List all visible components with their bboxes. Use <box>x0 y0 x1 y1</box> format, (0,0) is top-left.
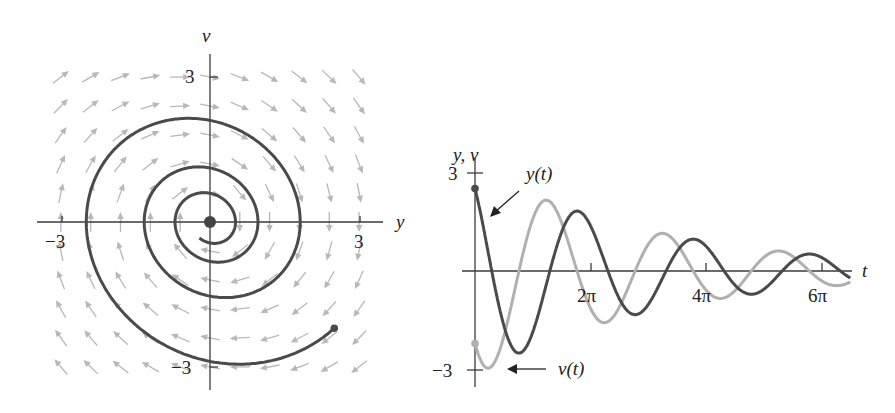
field-arrowhead-icon <box>237 225 243 232</box>
field-arrowhead-icon <box>357 195 363 203</box>
field-arrowhead-icon <box>260 364 268 370</box>
field-arrowhead-icon <box>117 212 123 219</box>
figure: v y −3 3 3 −3 y, v t 3 −3 2π 4π 6π y(t) … <box>0 0 895 413</box>
y-annotation-arrow-icon <box>490 191 519 217</box>
field-arrowhead-icon <box>270 105 278 112</box>
v-annotation-arrow-icon <box>507 364 546 374</box>
field-arrowhead-icon <box>260 336 268 342</box>
field-arrowhead-icon <box>58 212 64 219</box>
field-arrowhead-icon <box>325 253 331 261</box>
field-arrowhead-icon <box>200 247 208 253</box>
field-arrowhead-icon <box>230 278 238 284</box>
field-arrowhead-icon <box>119 184 125 192</box>
field-arrowhead-icon <box>295 253 301 261</box>
field-arrowhead-icon <box>212 104 220 110</box>
field-arrowhead-icon <box>200 334 208 340</box>
field-arrowhead-icon <box>328 136 335 144</box>
field-arrowhead-icon <box>212 162 220 168</box>
time-tick-label-pos3: 3 <box>448 163 458 184</box>
field-arrowhead-icon <box>122 73 130 79</box>
field-arrowhead-icon <box>200 363 208 369</box>
phase-v-axis-label: v <box>202 25 211 46</box>
field-arrowhead-icon <box>58 183 64 191</box>
field-arrowhead-icon <box>177 212 183 219</box>
field-arrowhead-icon <box>147 212 153 219</box>
field-arrowhead-icon <box>182 160 190 166</box>
phase-tick-label-y-pos3: 3 <box>354 231 364 252</box>
field-arrowhead-icon <box>212 133 220 139</box>
field-arrowhead-icon <box>152 102 160 108</box>
time-tick-label-4pi: 4π <box>692 285 712 306</box>
time-t-axis-label: t <box>862 260 868 281</box>
field-arrowhead-icon <box>290 365 298 371</box>
phase-start-point <box>330 324 338 332</box>
y-of-t-annotation: y(t) <box>524 163 552 185</box>
field-arrowhead-icon <box>327 195 333 203</box>
phase-tick-label-y-neg3: −3 <box>45 231 65 252</box>
v-of-t-curve <box>475 200 850 368</box>
time-tick-label-6pi: 6π <box>808 285 828 306</box>
field-arrowhead-icon <box>326 225 332 232</box>
field-arrowhead-icon <box>358 107 365 115</box>
time-yv-axis-label: y, v <box>451 144 479 165</box>
field-arrowhead-icon <box>91 100 99 107</box>
field-arrowhead-icon <box>230 335 237 341</box>
phase-plane-chart: v y −3 3 3 −3 <box>37 25 405 390</box>
field-arrowhead-icon <box>200 276 208 282</box>
field-arrowhead-icon <box>117 242 123 250</box>
time-tick-label-2pi: 2π <box>577 285 597 306</box>
field-arrowhead-icon <box>61 71 69 78</box>
equilibrium-point <box>204 216 216 228</box>
phase-tick-label-v-pos3: 3 <box>185 66 195 87</box>
field-arrowhead-icon <box>153 73 161 79</box>
field-arrowhead-icon <box>355 253 361 261</box>
field-arrowhead-icon <box>351 366 359 373</box>
field-arrowhead-icon <box>183 103 190 109</box>
field-arrowhead-icon <box>88 212 94 219</box>
v-of-t-annotation: v(t) <box>558 358 584 380</box>
time-series-chart: y, v t 3 −3 2π 4π 6π y(t) v(t) <box>432 144 868 387</box>
field-arrowhead-icon <box>113 361 121 368</box>
field-arrowhead-icon <box>57 271 63 279</box>
field-arrowhead-icon <box>60 127 67 134</box>
field-arrowhead-icon <box>353 310 360 318</box>
time-tick-label-neg3: −3 <box>432 360 452 381</box>
phase-tick-label-v-neg3: −3 <box>171 357 191 378</box>
field-arrowhead-icon <box>181 187 189 194</box>
v-start-point <box>471 340 479 348</box>
field-arrowhead-icon <box>55 330 62 338</box>
phase-y-axis-label: y <box>394 211 405 232</box>
field-arrowhead-icon <box>85 301 92 309</box>
field-arrowhead-icon <box>357 166 363 174</box>
field-arrowhead-icon <box>300 76 308 83</box>
field-arrowhead-icon <box>266 225 272 232</box>
y-start-point <box>471 185 479 193</box>
field-arrowhead-icon <box>230 306 237 312</box>
field-arrowhead-icon <box>241 163 249 170</box>
field-arrowhead-icon <box>183 132 190 138</box>
field-arrowhead-icon <box>200 305 208 311</box>
